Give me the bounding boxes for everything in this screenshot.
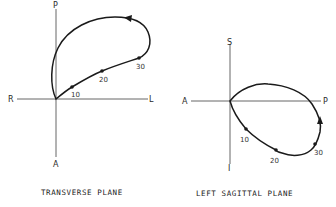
time-marker-dot	[313, 142, 317, 146]
time-marker-label: 30	[314, 149, 323, 157]
axis-label-anterior: A	[182, 97, 188, 106]
axis-label-left: L	[149, 95, 154, 104]
sagittal-direction-arrow-icon	[317, 116, 323, 124]
time-marker-dot	[274, 148, 278, 152]
panel-title: TRANSVERSE PLANE	[41, 188, 123, 197]
time-marker-label: 20	[270, 157, 279, 165]
left-sagittal-plane-panel: S I A P 10 20 30 LEFT SAGITTAL PLANE	[182, 38, 328, 198]
axis-label-inferior: I	[228, 164, 230, 173]
axis-label-right: R	[8, 95, 14, 104]
time-marker-dot	[244, 127, 248, 131]
axis-label-superior: S	[227, 38, 232, 47]
transverse-direction-arrow-icon	[124, 15, 132, 22]
transverse-plane-panel: P A R L 10 20 30 TRANSVERSE PLANE	[8, 1, 154, 197]
vector-loop-diagram: P A R L 10 20 30 TRANSVERSE PLANE S I A …	[0, 0, 336, 207]
time-marker-dot	[70, 85, 74, 89]
time-marker-dot	[100, 69, 104, 73]
sagittal-vector-loop	[230, 84, 321, 156]
axis-label-posterior: P	[53, 1, 58, 10]
time-marker-label: 10	[71, 91, 80, 99]
time-marker-dot	[137, 56, 141, 60]
time-marker-label: 20	[99, 76, 108, 84]
axis-label-posterior: P	[323, 97, 328, 106]
transverse-vector-loop	[52, 17, 150, 99]
time-marker-label: 10	[240, 136, 249, 144]
panel-title: LEFT SAGITTAL PLANE	[196, 189, 293, 198]
axis-label-anterior: A	[53, 160, 59, 169]
time-marker-label: 30	[136, 63, 145, 71]
